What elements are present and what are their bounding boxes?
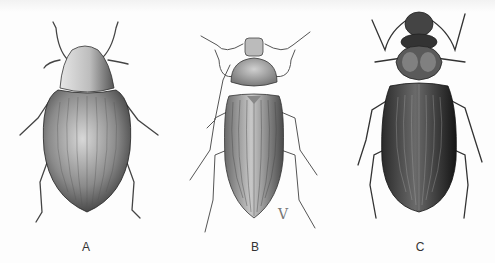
beetle-figure-b: V B — [165, 0, 330, 263]
figure-label-a: A — [76, 240, 96, 254]
figure-label-c: C — [410, 240, 430, 254]
beetle-a-drawing — [0, 0, 165, 263]
beetle-c-drawing — [330, 0, 495, 263]
figure-label-b: B — [245, 240, 265, 254]
beetle-b-drawing — [165, 0, 330, 263]
illustration-plate: A — [0, 0, 495, 263]
signature-mark: V — [278, 206, 288, 222]
beetle-figure-a: A — [0, 0, 165, 263]
beetle-figure-c: C — [330, 0, 495, 263]
